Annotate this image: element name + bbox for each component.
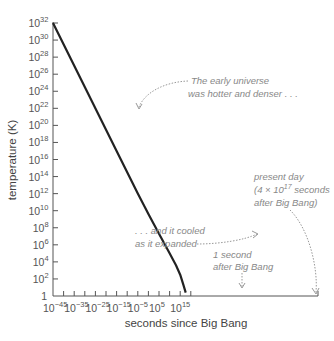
x-tick-label: 1015 [170,300,190,314]
temperature-curve [53,23,186,293]
chart: 1102104106108101010121014101610181020102… [0,0,334,341]
y-tick-label: 106 [33,237,49,251]
y-tick-label: 1018 [28,134,48,148]
x-tick-label: 10−5 [128,300,148,314]
y-tick-label: 1022 [28,100,48,114]
y-tick-label: 1028 [28,49,48,63]
arrow-head-icon [252,231,258,238]
y-tick-label: 1 [41,290,47,302]
svg-text:(4 × 1017 seconds: (4 × 1017 seconds [254,183,330,195]
svg-text:after Big Bang: after Big Bang [213,261,274,272]
y-tick-label: 108 [33,220,49,234]
annotation-cooled: . . . and it cooled as it expanded [135,225,258,249]
annotation-present-day: present day (4 × 1017 seconds after Big … [253,171,330,294]
axes [53,22,318,296]
y-tick-label: 1026 [28,66,48,80]
y-tick-label: 1020 [28,117,48,131]
y-axis-title: temperature (K) [6,120,18,201]
annotation-early-universe: The early universe was hotter and denser… [136,75,298,109]
svg-text:The early universe: The early universe [191,75,269,86]
y-tick-label: 102 [33,271,49,285]
y-tick-label: 1016 [28,152,48,166]
x-tick-label: 105 [149,300,165,314]
y-ticks: 1102104106108101010121014101610181020102… [28,15,58,302]
x-axis-title: seconds since Big Bang [125,317,248,329]
y-tick-label: 104 [33,254,49,268]
svg-text:1 second: 1 second [213,249,252,260]
y-tick-label: 1014 [28,169,48,183]
y-tick-label: 1012 [28,186,48,200]
svg-text:was hotter and denser . . .: was hotter and denser . . . [188,88,298,99]
y-tick-label: 1030 [28,32,48,46]
x-ticks: 10−4510−3510−2510−1510−51051015 [43,291,318,314]
svg-text:. . . and it cooled: . . . and it cooled [135,225,205,236]
svg-text:after Big Bang): after Big Bang) [254,197,317,208]
svg-text:as it expanded: as it expanded [135,238,198,249]
y-tick-label: 1010 [28,203,48,217]
svg-text:present day: present day [253,171,305,182]
y-tick-label: 1024 [28,83,48,97]
annotation-one-second: 1 second after Big Bang [213,249,274,288]
y-tick-label: 1032 [28,15,48,29]
